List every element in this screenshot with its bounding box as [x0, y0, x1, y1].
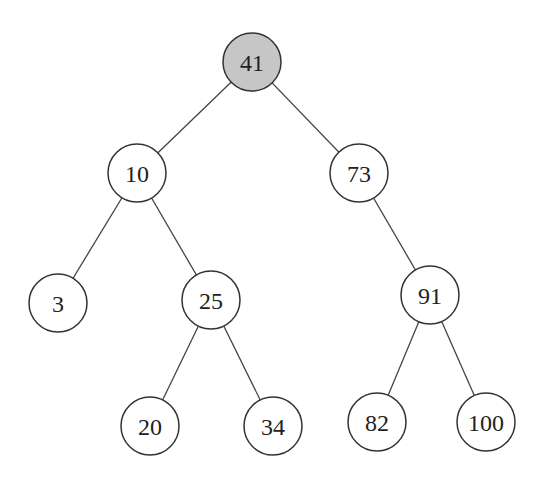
tree-node: 73: [330, 144, 388, 202]
tree-node: 20: [121, 397, 179, 455]
node-label: 25: [199, 288, 223, 314]
edges-layer: [58, 62, 486, 426]
node-label: 100: [468, 410, 504, 436]
node-label: 34: [261, 414, 285, 440]
nodes-layer: 41 10 73 3 25 91 20 34: [29, 33, 515, 455]
tree-node: 25: [182, 271, 240, 329]
tree-node: 3: [29, 274, 87, 332]
tree-node: 10: [108, 144, 166, 202]
bst-diagram: 41 10 73 3 25 91 20 34: [0, 0, 545, 484]
node-label: 3: [52, 291, 64, 317]
tree-node: 100: [457, 393, 515, 451]
node-label: 41: [240, 50, 264, 76]
tree-node: 34: [244, 397, 302, 455]
node-label: 10: [125, 161, 149, 187]
tree-node-root: 41: [223, 33, 281, 91]
node-label: 73: [347, 161, 371, 187]
node-label: 20: [138, 414, 162, 440]
node-label: 82: [365, 410, 389, 436]
tree-node: 91: [401, 266, 459, 324]
node-label: 91: [418, 283, 442, 309]
tree-node: 82: [348, 393, 406, 451]
